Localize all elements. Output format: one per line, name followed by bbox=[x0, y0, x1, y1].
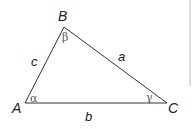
vertex-a-label: A bbox=[11, 100, 21, 116]
side-a-label: a bbox=[118, 49, 125, 64]
side-c-label: c bbox=[31, 54, 38, 69]
triangle-diagram: A B C a b c α β γ bbox=[0, 0, 193, 129]
vertex-c-label: C bbox=[168, 100, 179, 116]
angle-alpha-label: α bbox=[30, 92, 38, 105]
angle-beta-label: β bbox=[62, 31, 68, 44]
side-b-label: b bbox=[85, 109, 92, 124]
angle-gamma-label: γ bbox=[146, 91, 153, 104]
vertex-b-label: B bbox=[58, 8, 67, 24]
